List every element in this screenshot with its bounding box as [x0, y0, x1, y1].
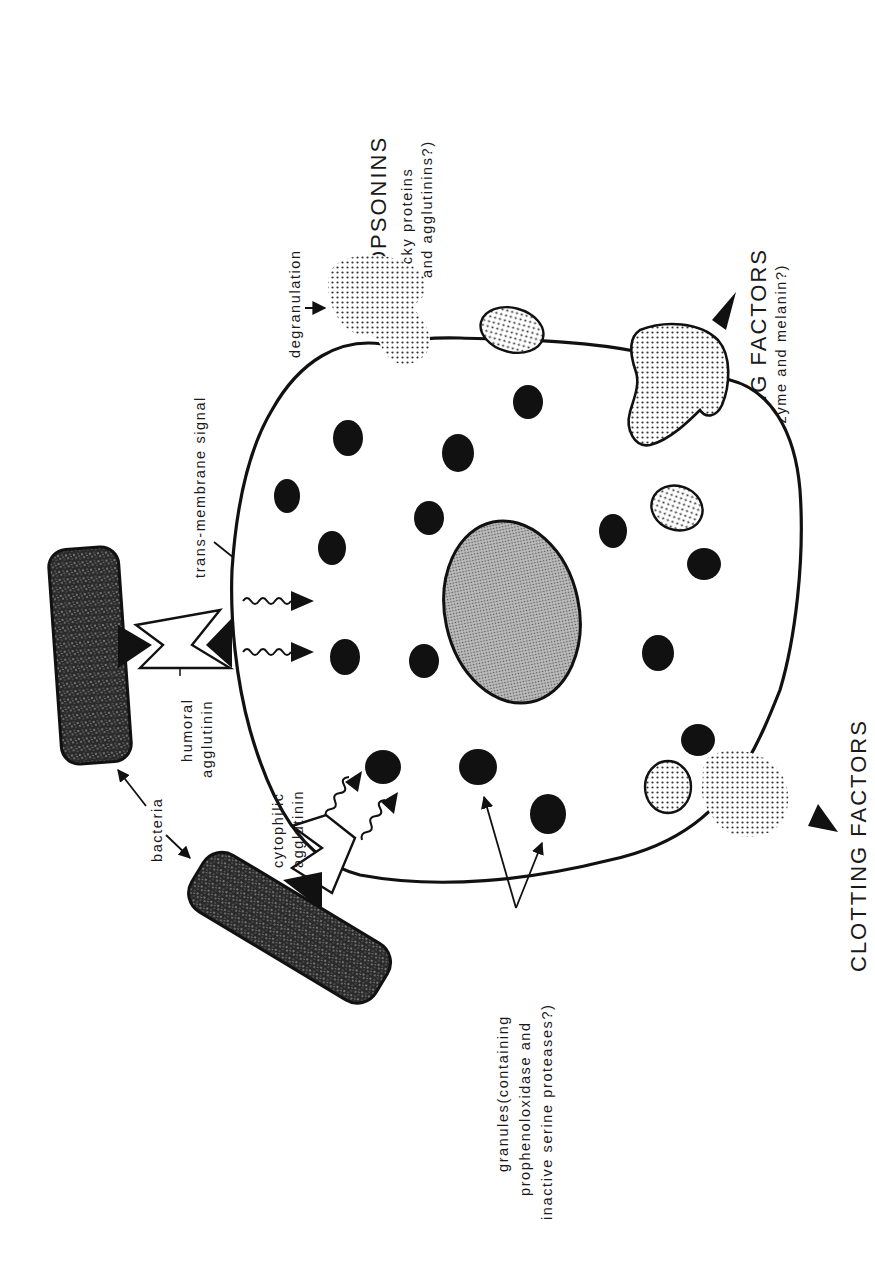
cytophilic-agglutinin-label-line2: agglutinin [290, 790, 306, 868]
trans-membrane-signal-label: trans-membrane signal [192, 396, 208, 578]
bacteria-label: bacteria [149, 798, 165, 862]
clotting-factors-arrowhead-icon [808, 804, 838, 832]
bacteria-arrow-lower-icon [166, 835, 190, 858]
hemocyte-diagram: OPSONINS (sticky proteins and agglutinin… [0, 0, 875, 1278]
opsonins-title: OPSONINS [366, 136, 391, 268]
degranulation-label: degranulation [287, 249, 303, 358]
humoral-agglutinin-label-line1: humoral [179, 698, 195, 762]
killing-factors-arrowhead-icon [712, 292, 736, 330]
granules-label-line1: granules(containing [495, 1015, 511, 1172]
clotting-factors-title: CLOTTING FACTORS [846, 719, 871, 972]
granules-label-line3: inactive serine proteases?) [539, 1004, 555, 1221]
clotting-factors-blob [702, 750, 789, 836]
stippled-granule [645, 761, 691, 813]
cytophilic-agglutinin-label-line1: cytophilic [270, 792, 286, 868]
humoral-agglutinin-label-line2: agglutinin [199, 700, 215, 778]
bacteria-arrow-upper-icon [118, 770, 146, 806]
granules-label-line2: prophenoloxidase and [517, 1021, 533, 1196]
opsonins-subtitle-2: and agglutinins?) [419, 140, 435, 278]
